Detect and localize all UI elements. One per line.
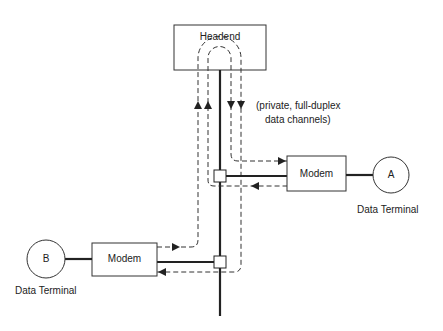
channel-b-path [157,37,241,273]
terminal-b-letter: B [27,253,65,265]
down-arrow-icon [227,101,235,109]
annotation-line-1: (private, full-duplex [256,100,340,112]
down-arrow-icon [237,101,245,109]
right-arrow-icon [278,157,286,165]
terminal-a-caption: Data Terminal [357,204,419,216]
terminal-a-letter: A [373,169,409,181]
annotation-line-2: data channels) [265,114,331,126]
terminal-b-caption: Data Terminal [15,285,77,297]
left-arrow-icon [251,182,259,190]
up-arrow-icon [194,101,202,109]
tap-b [214,256,226,268]
modem-b-label: Modem [92,253,157,265]
modem-a-label: Modem [287,168,346,180]
tap-a [214,170,226,182]
right-arrow-icon [172,243,180,251]
up-arrow-icon [204,101,212,109]
headend-label: Headend [174,31,266,43]
left-arrow-icon [158,268,166,276]
network-diagram [0,0,443,331]
